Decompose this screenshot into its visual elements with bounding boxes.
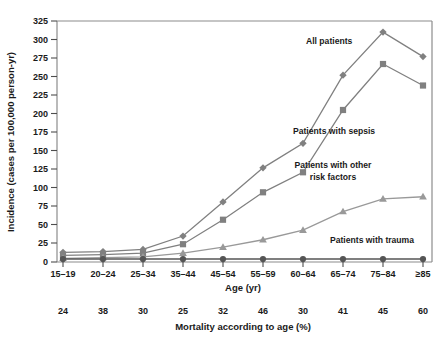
y-tick-150: 150 (33, 146, 57, 156)
y-tick-label: 325 (33, 16, 48, 26)
y-axis: 325 300 275 250 225 200 (5, 16, 57, 267)
data-point-square (300, 169, 306, 175)
y-tick-label: 100 (33, 183, 48, 193)
data-point-square (420, 82, 426, 88)
data-point-square (340, 107, 346, 113)
mortality-value: 46 (258, 306, 268, 316)
figure-container: 325 300 275 250 225 200 (0, 0, 440, 338)
data-point-diamond (419, 53, 426, 60)
mortality-value: 32 (218, 306, 228, 316)
y-tick-200: 200 (33, 109, 57, 119)
data-point-circle (420, 256, 426, 262)
x-tick-label: 60–64 (290, 269, 315, 279)
mortality-value: 38 (98, 306, 108, 316)
data-point-square (180, 241, 186, 247)
series-label-other-risk-line1: Patients with other (295, 160, 373, 170)
y-tick-75: 75 (38, 201, 57, 211)
data-point-circle (260, 256, 266, 262)
y-tick-label: 300 (33, 35, 48, 45)
series-label-all-patients: All patients (306, 36, 353, 46)
x-tick-label: 65–74 (330, 269, 355, 279)
data-point-circle (100, 256, 106, 262)
y-tick-label: 275 (33, 53, 48, 63)
y-tick-label: 50 (38, 220, 48, 230)
data-point-square (220, 217, 226, 223)
x-tick-label: 35–44 (170, 269, 195, 279)
mortality-value: 60 (418, 306, 428, 316)
incidence-by-age-line-chart: 325 300 275 250 225 200 (0, 0, 440, 338)
y-tick-label: 0 (43, 257, 48, 267)
y-tick-label: 125 (33, 164, 48, 174)
y-tick-125: 125 (33, 164, 57, 174)
mortality-row: 24 38 30 25 32 46 30 41 45 60 Mortality … (58, 306, 428, 332)
y-tick-225: 225 (33, 90, 57, 100)
y-tick-label: 150 (33, 146, 48, 156)
series-layer (59, 28, 427, 262)
series-label-other-risk-line2: risk factors (310, 172, 357, 182)
data-point-circle (300, 256, 306, 262)
series-label-patients-with-trauma: Patients with trauma (330, 235, 414, 245)
y-tick-275: 275 (33, 53, 57, 63)
series-label-patients-with-sepsis: Patients with sepsis (293, 126, 375, 136)
data-point-square (380, 61, 386, 67)
y-tick-100: 100 (33, 183, 57, 193)
y-tick-label: 200 (33, 109, 48, 119)
mortality-value: 24 (58, 306, 68, 316)
x-tick-label: 45–54 (210, 269, 235, 279)
plot-frame (57, 21, 432, 262)
y-tick-325: 325 (33, 16, 57, 26)
y-tick-175: 175 (33, 127, 57, 137)
data-point-triangle (419, 193, 427, 200)
x-tick-label: 55–59 (250, 269, 275, 279)
x-axis-title: Age (yr) (225, 282, 261, 293)
y-tick-label: 25 (38, 238, 48, 248)
y-tick-0: 0 (43, 257, 57, 267)
data-point-circle (60, 256, 66, 262)
y-tick-25: 25 (38, 238, 57, 248)
mortality-value: 41 (338, 306, 348, 316)
mortality-value: 45 (378, 306, 388, 316)
y-axis-title: Incidence (cases per 100,000 person-yr) (5, 52, 16, 232)
data-point-square (260, 189, 266, 195)
mortality-axis-title: Mortality according to age (%) (175, 321, 311, 332)
mortality-value: 30 (298, 306, 308, 316)
x-tick-label: 75–84 (370, 269, 395, 279)
x-tick-label: 15–19 (50, 269, 75, 279)
data-point-circle (140, 256, 146, 262)
x-tick-label: 25–34 (130, 269, 155, 279)
x-axis: 15–19 20–24 25–34 35–44 45–54 55–59 60–6… (50, 262, 430, 293)
mortality-value: 25 (178, 306, 188, 316)
mortality-value: 30 (138, 306, 148, 316)
y-tick-300: 300 (33, 35, 57, 45)
series-all-patients (59, 28, 426, 256)
data-point-diamond (299, 140, 306, 147)
y-tick-label: 175 (33, 127, 48, 137)
data-point-circle (380, 256, 386, 262)
data-point-circle (340, 256, 346, 262)
x-tick-label: 20–24 (90, 269, 115, 279)
data-point-circle (180, 256, 186, 262)
y-tick-label: 225 (33, 90, 48, 100)
x-tick-label: ≥85 (416, 269, 431, 279)
y-tick-label: 250 (33, 72, 48, 82)
series-line (63, 32, 423, 252)
data-point-circle (220, 256, 226, 262)
y-tick-250: 250 (33, 72, 57, 82)
y-tick-50: 50 (38, 220, 57, 230)
series-annotations: All patients Patients with sepsis Patien… (293, 36, 414, 245)
y-tick-label: 75 (38, 201, 48, 211)
